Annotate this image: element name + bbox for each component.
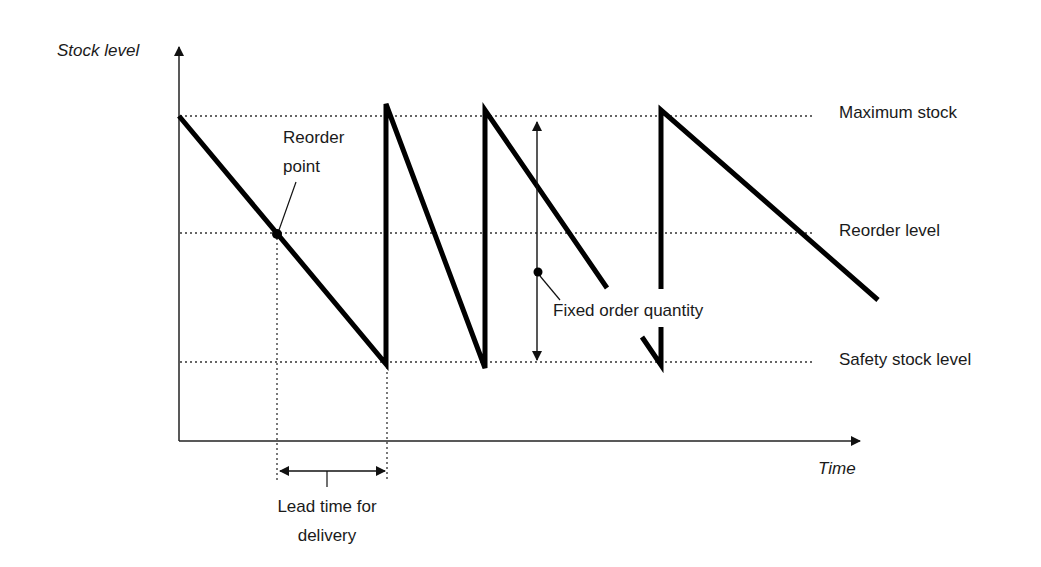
cycle-4 (661, 110, 878, 300)
fixed-order-quantity-arrow (534, 122, 561, 360)
reorder-point-dot (272, 229, 282, 239)
lead-time-label-line1: Lead time for (267, 497, 387, 517)
cycle-3-end (642, 327, 661, 365)
foq-leader (540, 276, 560, 300)
lead-time-label-line2: delivery (267, 526, 387, 546)
fixed-order-quantity-label: Fixed order quantity (553, 301, 703, 321)
lead-time-arrow (280, 471, 385, 487)
cycle-1 (179, 104, 607, 368)
foq-dot (534, 268, 543, 277)
safety-stock-level-label: Safety stock level (839, 350, 971, 370)
reorder-point-label-line1: Reorder (283, 128, 344, 148)
maximum-stock-label: Maximum stock (839, 103, 957, 123)
inventory-diagram (0, 0, 1041, 567)
reorder-level-label: Reorder level (839, 221, 940, 241)
reorder-point-leader (279, 182, 296, 230)
axes (179, 47, 860, 441)
level-lines (180, 116, 815, 482)
y-axis-label: Stock level (57, 41, 139, 61)
x-axis-label: Time (818, 459, 856, 479)
reorder-point-marker (272, 182, 296, 239)
reorder-point-label-line2: point (283, 157, 320, 177)
